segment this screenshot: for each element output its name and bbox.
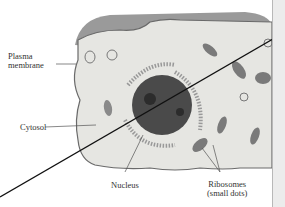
cell-illustration (0, 0, 285, 207)
nucleus-icon (132, 75, 192, 135)
label-nucleus: Nucleus (111, 181, 139, 190)
label-plasma-membrane: Plasma membrane (8, 52, 44, 70)
side-panel (272, 0, 285, 207)
label-cytosol: Cytosol (20, 123, 46, 132)
mitochondrion-icon (255, 72, 271, 84)
label-ribosomes: Ribosomes (small dots) (207, 180, 247, 198)
cell-diagram: Plasma membrane Cytosol Nucleus Ribosome… (0, 0, 285, 207)
